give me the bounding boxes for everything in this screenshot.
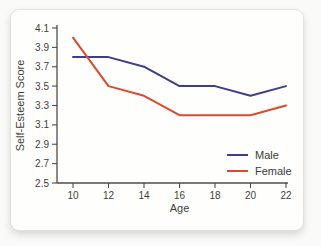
female-series-line — [73, 38, 286, 116]
x-tick-label: 20 — [245, 190, 257, 201]
y-tick-label: 3.7 — [35, 61, 49, 72]
y-tick-label: 4.1 — [35, 23, 49, 34]
x-tick-label: 16 — [174, 190, 186, 201]
y-tick-label: 3.1 — [35, 119, 49, 130]
y-tick-label: 2.7 — [35, 158, 49, 169]
x-tick-label: 18 — [209, 190, 221, 201]
y-axis-label: Self-Esteem Score — [14, 60, 26, 152]
female-legend-label: Female — [255, 165, 292, 177]
female-line-swatch-icon — [227, 170, 248, 172]
y-tick-label: 2.9 — [35, 139, 49, 150]
chart-svg: 2.52.72.93.13.33.53.73.94.11012141618202… — [0, 0, 321, 246]
legend-item-female: Female — [227, 165, 292, 177]
x-axis-label: Age — [170, 202, 190, 214]
male-series-line — [73, 57, 286, 96]
x-tick-label: 22 — [280, 190, 292, 201]
y-tick-label: 3.3 — [35, 100, 49, 111]
male-legend-label: Male — [255, 149, 279, 161]
y-tick-label: 3.9 — [35, 42, 49, 53]
legend: Male Female — [227, 149, 292, 177]
y-tick-label: 3.5 — [35, 81, 49, 92]
x-tick-label: 12 — [103, 190, 115, 201]
legend-item-male: Male — [227, 149, 292, 161]
x-tick-label: 14 — [138, 190, 150, 201]
chart-figure: { "chart_data": { "type": "line", "title… — [0, 0, 321, 246]
y-tick-label: 2.5 — [35, 178, 49, 189]
x-tick-label: 10 — [67, 190, 79, 201]
male-line-swatch-icon — [227, 154, 248, 156]
